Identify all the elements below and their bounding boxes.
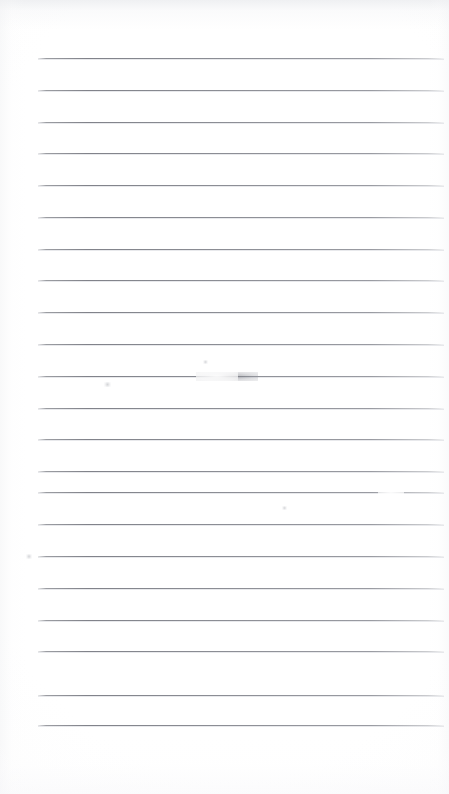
ruled-line-1: [38, 58, 444, 59]
ruled-line-16: [38, 524, 444, 525]
ruled-line-18: [38, 588, 444, 589]
ruled-line-14: [38, 471, 444, 472]
ruled-line-7: [38, 249, 444, 250]
ruled-line-6: [38, 217, 444, 218]
ruled-line-9: [38, 312, 444, 313]
ruled-line-4: [38, 153, 444, 154]
ruled-line-21: [38, 695, 444, 696]
ruled-line-10: [38, 344, 444, 345]
ruled-line-5: [38, 185, 444, 186]
ruled-line-19: [38, 620, 444, 621]
ruled-line-3: [38, 122, 444, 123]
scanned-lined-page: [0, 0, 449, 794]
ruled-line-22: [38, 725, 444, 726]
ruled-line-12: [38, 408, 444, 409]
ruled-line-11: [38, 376, 444, 377]
ruled-line-8: [38, 280, 444, 281]
ruled-line-20: [38, 651, 444, 652]
ruled-line-15: [38, 492, 444, 493]
ruled-line-group: [0, 0, 449, 794]
ruled-line-2: [38, 90, 444, 91]
ruled-line-17: [38, 556, 444, 557]
ruled-line-13: [38, 439, 444, 440]
